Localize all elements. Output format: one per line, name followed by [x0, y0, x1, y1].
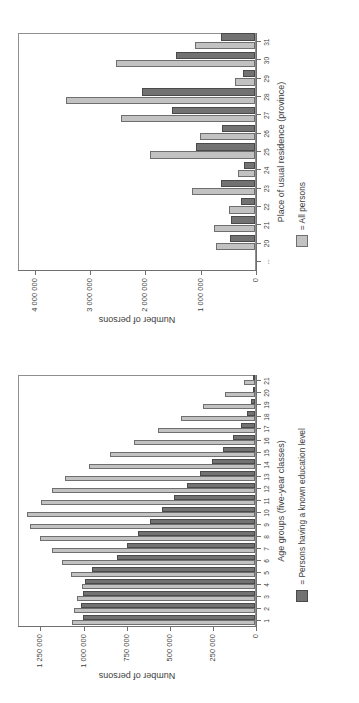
bar-age-8-series0 [40, 536, 255, 541]
legend-label-left: = Persons having a known education level [297, 428, 307, 585]
value-tick-prov-2 [145, 271, 146, 275]
bar-age-5-series0 [71, 572, 255, 577]
bar-prov-26-series0 [200, 133, 255, 140]
category-label-age-12: 12 [263, 485, 270, 492]
category-tick-age-16 [257, 440, 261, 441]
bar-age-17-series1 [241, 423, 255, 428]
category-tick-age-14 [257, 464, 261, 465]
category-tick-age-10 [257, 512, 261, 513]
value-tick-prov-0 [256, 271, 257, 275]
bar-prov-21-series0 [214, 225, 255, 232]
value-tick-label-prov-3: 3 000 000 [85, 278, 94, 312]
bar-prov-22-series1 [241, 198, 255, 205]
bar-prov-25-series1 [196, 143, 255, 150]
bar-prov-24-series1 [244, 162, 255, 169]
bar-age-4-series0 [82, 584, 255, 589]
y-axis-title-left: Number of persons [99, 671, 176, 681]
category-tick-prov-23 [257, 188, 261, 189]
value-tick-label-prov-1: 1 000 000 [196, 278, 205, 312]
value-tick-prov-3 [90, 271, 91, 275]
y-axis-title-right: Number of persons [99, 315, 176, 325]
bar-age-12-series0 [52, 488, 255, 493]
category-label-prov-31: 31 [263, 38, 270, 45]
bar-prov-30-series0 [116, 60, 255, 67]
legend-right: = All persons [296, 182, 308, 247]
bar-prov-30-series1 [176, 52, 255, 59]
category-label-age-20: 20 [263, 389, 270, 396]
bar-prov-23-series1 [221, 180, 255, 187]
category-label-prov-27: 27 [263, 112, 270, 119]
category-label-age-8: 8 [263, 535, 270, 539]
bar-age-10-series1 [162, 507, 255, 512]
category-tick-age-6 [257, 560, 261, 561]
bar-age-18-series1 [247, 411, 255, 416]
category-label-prov-23: 23 [263, 185, 270, 192]
value-tick-label-prov-4: 4 000 000 [30, 278, 39, 312]
value-tick-prov-4 [35, 271, 36, 275]
age-groups-chart: 0250 000500 000750 0001 000 0001 250 000… [0, 351, 359, 703]
value-axis-line-prov [18, 270, 256, 271]
category-tick-prov-22 [257, 206, 261, 207]
bar-prov-29-series1 [243, 70, 255, 77]
category-tick-age-13 [257, 476, 261, 477]
value-axis-line-age [18, 626, 256, 627]
category-tick-prov-28 [257, 96, 261, 97]
category-tick-age-12 [257, 488, 261, 489]
province-chart: 01 000 0002 000 0003 000 0004 000 000 ..… [0, 0, 359, 351]
bar-prov-29-series0 [235, 78, 255, 85]
bar-age-5-series1 [92, 567, 255, 572]
value-tick-label-age-5: 1 250 000 [35, 634, 44, 668]
category-axis-line-prov [256, 33, 257, 271]
bar-age-7-series0 [52, 548, 256, 553]
category-tick-age-17 [257, 428, 261, 429]
category-label-age-3: 3 [263, 595, 270, 599]
category-label-prov-26: 26 [263, 130, 270, 137]
category-tick-age-2 [257, 608, 261, 609]
bar-age-6-series0 [62, 560, 255, 565]
value-tick-label-age-1: 250 000 [208, 634, 217, 661]
category-tick-age-3 [257, 596, 261, 597]
bar-age-13-series1 [200, 471, 255, 476]
bar-age-9-series1 [150, 519, 255, 524]
category-label-age-9: 9 [263, 523, 270, 527]
bar-prov-26-series1 [222, 125, 255, 132]
category-label-prov-21: 21 [263, 222, 270, 229]
category-tick-age-9 [257, 524, 261, 525]
bar-prov-20-series1 [230, 235, 255, 242]
category-tick-age-8 [257, 536, 261, 537]
category-label-age-11: 11 [263, 498, 270, 505]
bar-age-20-series0 [225, 392, 255, 397]
bar-age-18-series0 [181, 416, 255, 421]
bar-age-15-series0 [110, 452, 255, 457]
bar-prov-27-series0 [121, 115, 255, 122]
legend-swatch-light-icon [296, 235, 308, 247]
value-tick-label-age-3: 750 000 [122, 634, 131, 661]
category-label-prov-29: 29 [263, 75, 270, 82]
bar-age-21-series1 [253, 375, 255, 380]
category-tick-prov-20 [257, 243, 261, 244]
bar-age-15-series1 [223, 447, 255, 452]
bar-age-2-series1 [81, 603, 255, 608]
bar-age-14-series0 [89, 464, 255, 469]
bar-prov-31-series1 [221, 33, 255, 40]
category-label-age-16: 16 [263, 437, 270, 444]
category-label-prov-20: 20 [263, 240, 270, 247]
category-label-age-4: 4 [263, 583, 270, 587]
bar-age-1-series1 [83, 615, 255, 620]
category-label-age-7: 7 [263, 547, 270, 551]
bar-prov-28-series0 [66, 97, 255, 104]
bar-prov-25-series0 [150, 151, 255, 158]
bar-age-16-series1 [233, 435, 255, 440]
category-tick-age-1 [257, 620, 261, 621]
legend-left: = Persons having a known education level [296, 428, 308, 602]
value-tick-label-prov-0: 0 [251, 278, 260, 282]
legend-label-right: = All persons [297, 182, 307, 230]
category-label-age-17: 17 [263, 425, 270, 432]
x-axis-title-right: Place of usual residence (province) [276, 82, 286, 223]
bar-age-3-series0 [77, 596, 255, 601]
bar-prov-22-series0 [229, 206, 255, 213]
category-tick-prov-25 [257, 151, 261, 152]
category-tick-prov-21 [257, 224, 261, 225]
scanned-figure-page: 0250 000500 000750 0001 000 0001 250 000… [0, 0, 359, 703]
bar-age-10-series0 [27, 512, 255, 517]
